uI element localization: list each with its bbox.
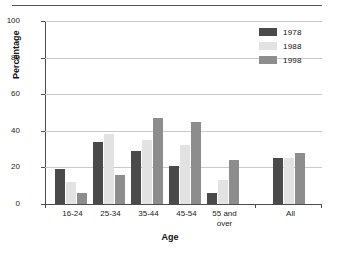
bar-group: 35-44 [131, 21, 166, 204]
legend-item-1978[interactable]: 1978 [259, 25, 302, 39]
y-tick-mark [41, 131, 45, 132]
y-tick-mark [41, 21, 45, 22]
bar-1978-25-34[interactable] [93, 142, 103, 204]
legend-swatch-1978 [259, 28, 277, 36]
bar-1988-25-34[interactable] [104, 134, 114, 204]
bar-chart-figure: 020406080100 16-2425-3435-4445-5455 and … [0, 0, 340, 263]
legend-label: 1988 [283, 42, 302, 51]
y-tick-label: 40 [0, 127, 20, 135]
bar-1978-All[interactable] [273, 158, 283, 204]
y-tick-label: 100 [0, 17, 20, 25]
legend-swatch-1988 [259, 42, 277, 50]
bar-1998-45-54[interactable] [191, 122, 201, 204]
x-axis-title: Age [0, 232, 340, 242]
top-divider [12, 5, 322, 6]
x-tick-label: 16-24 [51, 209, 94, 219]
legend-item-1998[interactable]: 1998 [259, 53, 302, 67]
bar-1978-16-24[interactable] [55, 169, 65, 204]
x-tick-mark [45, 204, 46, 208]
bar-1978-35-44[interactable] [131, 151, 141, 204]
bar-1998-55-and-over[interactable] [229, 160, 239, 204]
bar-1978-45-54[interactable] [169, 166, 179, 204]
bar-1998-35-44[interactable] [153, 118, 163, 204]
bar-1988-All[interactable] [284, 158, 294, 204]
x-tick-label: 55 and over [203, 209, 246, 229]
x-tick-label: 25-34 [89, 209, 132, 219]
chart-legend: 197819881998 [259, 25, 302, 67]
bar-1998-25-34[interactable] [115, 175, 125, 204]
bar-1988-45-54[interactable] [180, 145, 190, 204]
bar-group: 55 and over [207, 21, 242, 204]
x-tick-label: 45-54 [165, 209, 208, 219]
y-tick-mark [41, 167, 45, 168]
x-tick-mark [321, 204, 322, 208]
x-tick-label: All [269, 209, 312, 219]
bar-1988-55-and-over[interactable] [218, 180, 228, 204]
y-axis-title: Percentage [11, 30, 21, 79]
bar-group: 45-54 [169, 21, 204, 204]
x-axis-line [45, 204, 322, 205]
bar-1988-35-44[interactable] [142, 140, 152, 204]
bar-1998-16-24[interactable] [77, 193, 87, 204]
bar-group: 25-34 [93, 21, 128, 204]
legend-label: 1998 [283, 56, 302, 65]
bar-group: 16-24 [55, 21, 90, 204]
y-tick-label: 0 [0, 200, 20, 208]
bar-1978-55-and-over[interactable] [207, 193, 217, 204]
x-tick-label: 35-44 [127, 209, 170, 219]
legend-item-1988[interactable]: 1988 [259, 39, 302, 53]
x-tick-mark [255, 204, 256, 208]
y-tick-label: 60 [0, 90, 20, 98]
bar-1998-All[interactable] [295, 153, 305, 204]
legend-label: 1978 [283, 28, 302, 37]
y-tick-mark [41, 94, 45, 95]
legend-swatch-1998 [259, 56, 277, 64]
y-tick-mark [41, 58, 45, 59]
bar-1988-16-24[interactable] [66, 182, 76, 204]
y-tick-label: 20 [0, 163, 20, 171]
